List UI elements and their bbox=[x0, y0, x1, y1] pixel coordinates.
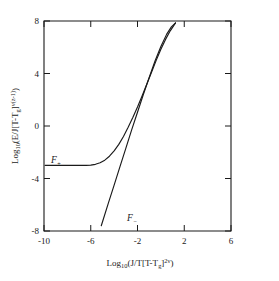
y-tick-label: -4 bbox=[32, 174, 40, 184]
curve-f-plus bbox=[45, 23, 175, 165]
x-tick-label: -2 bbox=[134, 236, 142, 246]
x-tick-label: 6 bbox=[229, 236, 234, 246]
y-tick-label: -8 bbox=[32, 226, 40, 236]
y-axis-title: Log10(E/J[T-Tg]ν(z-1)) bbox=[9, 88, 22, 164]
y-tick-label: 4 bbox=[35, 69, 40, 79]
x-tick-labels: -10 -6 -2 2 6 bbox=[38, 236, 234, 246]
x-tick-label: -6 bbox=[87, 236, 95, 246]
f-minus-label: F− bbox=[126, 213, 137, 225]
curve-f-minus bbox=[101, 23, 175, 226]
x-tick-label: -10 bbox=[38, 236, 50, 246]
y-tick-label: 0 bbox=[35, 121, 40, 131]
axes-frame bbox=[44, 21, 231, 231]
x-axis-title: Log10(J/T[T-Tg]2ν) bbox=[107, 257, 174, 270]
f-plus-label: F+ bbox=[50, 155, 61, 167]
x-axis-ticks bbox=[44, 21, 231, 231]
scaling-function-plot: 8 4 0 -4 -8 -10 -6 -2 2 6 F+ F− Log10(J/… bbox=[0, 0, 279, 281]
plot-border bbox=[44, 21, 231, 231]
y-tick-labels: 8 4 0 -4 -8 bbox=[32, 16, 40, 236]
figure-container: 8 4 0 -4 -8 -10 -6 -2 2 6 F+ F− Log10(J/… bbox=[0, 0, 279, 281]
x-tick-label: 2 bbox=[182, 236, 187, 246]
y-tick-label: 8 bbox=[35, 16, 40, 26]
y-axis-ticks bbox=[44, 21, 231, 231]
